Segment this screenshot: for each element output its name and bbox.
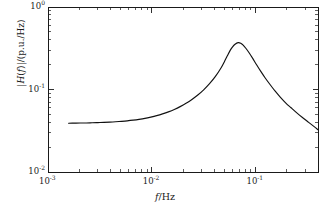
x-axis-label: f/Hz (0, 191, 330, 202)
y-axis-label-wrapper: |H(f)|/(p.u./Hz) (9, 0, 23, 113)
x-tick-label-2: 10-1 (0, 177, 330, 186)
data-curve-magnitude (69, 43, 318, 130)
y-axis-label: |H(f)|/(p.u./Hz) (16, 19, 26, 86)
x-axis-ticks (48, 7, 318, 172)
y-tick-label-2: 10-2 (21, 167, 45, 176)
axes-frame (48, 7, 318, 172)
y-tick-label-0: 100 (21, 2, 45, 11)
y-axis-ticks (48, 7, 318, 172)
figure-container: 10-3 10-2 10-1 100 10-1 10-2 f/Hz |H(f)|… (0, 0, 330, 213)
